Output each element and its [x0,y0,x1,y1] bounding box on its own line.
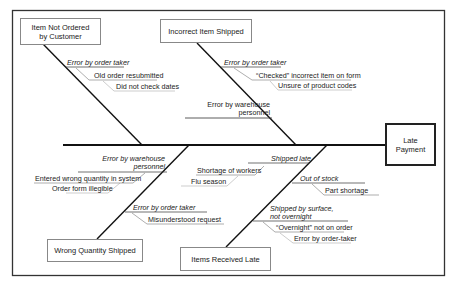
sub-cause-unsure-of-product-codes: Unsure of product codes [278,82,356,90]
category-label: Incorrect Item Shipped [168,27,243,36]
cause-error-by-order-taker: Error by order taker [67,59,129,67]
sub-cause-entered-wrong-quantity: Entered wrong quantity in system [35,175,141,183]
category-label: Wrong Quantity Shipped [54,246,136,255]
category-incorrect-item-shipped: Incorrect Item Shipped [160,19,252,43]
category-label: Items Received Late [191,255,259,264]
cause-label-line2: personnel [192,109,270,117]
sub-cause-part-shortage: Part shortage [325,187,368,195]
cause-error-by-order-taker: Error by order taker [133,204,195,212]
cause-shipped-late: Shipped late [271,155,311,163]
category-label-line1: Item Not Ordered [32,23,90,32]
sub-cause-shortage-of-workers: Shortage of workers [197,167,261,175]
sub-cause-misunderstood-request: Misunderstood request [148,216,221,224]
cause-label-line2: not overnight [270,213,334,221]
cause-error-by-warehouse-personnel: Error by warehouse personnel [192,101,270,117]
category-wrong-quantity-shipped: Wrong Quantity Shipped [47,239,143,262]
diagram-frame [13,11,445,276]
cause-error-by-order-taker: Error by order taker [224,59,286,67]
category-item-not-ordered: Item Not Ordered by Customer [20,18,101,45]
sub-cause-did-not-check-dates: Did not check dates [116,83,179,91]
effect-label-line2: Payment [396,145,426,154]
sub-cause-error-by-order-taker: Error by order-taker [294,235,357,243]
sub-cause-overnight-not-on-order: “Overnight” not on order [276,224,353,232]
cause-error-by-warehouse-personnel: Error by warehouse personnel [88,155,165,171]
sub-cause-old-order-resubmitted: Old order resubmitted [94,72,164,80]
category-items-received-late: Items Received Late [180,247,271,271]
sub-cause-checked-incorrect-item: “Checked” incorrect item on form [256,72,361,80]
sub-cause-flu-season: Flu season [191,178,226,186]
effect-label-line1: Late [396,136,426,145]
cause-shipped-by-surface: Shipped by surface, not overnight [270,205,334,221]
cause-label-line2: personnel [88,163,165,171]
sub-cause-order-form-illegible: Order form illegible [52,185,113,193]
cause-out-of-stock: Out of stock [300,175,338,183]
category-label-line2: by Customer [32,32,90,41]
effect-late-payment: Late Payment [385,123,436,166]
